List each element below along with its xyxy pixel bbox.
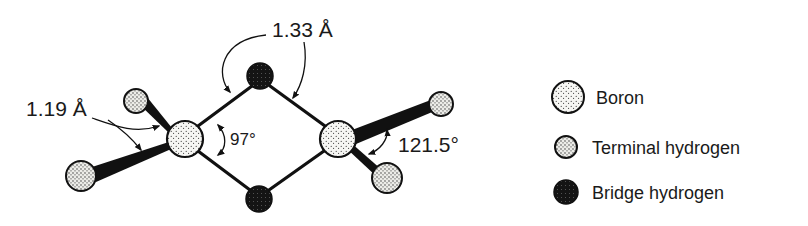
legend-item-bridge-hydrogen: Bridge hydrogen [554,180,724,204]
legend-item-terminal-hydrogen: Terminal hydrogen [555,136,740,158]
boron-atoms [167,121,356,157]
terminal-hydrogen-atom [429,92,453,116]
boron-legend-icon [552,81,584,113]
terminal-hydrogen-atom [66,161,96,191]
boron-atom [320,121,356,157]
diborane-diagram: 1.33 Å 1.19 Å 97° 121.5° Boron Terminal … [0,0,808,226]
terminal-angle-label: 121.5° [398,133,459,156]
terminal-hydrogen-legend-icon [555,136,577,158]
bridge-hydrogen-atom [246,186,272,212]
legend-label-bridge-hydrogen: Bridge hydrogen [592,183,724,203]
bridge-hydrogen-atom [247,63,273,89]
terminal-bond-length-label: 1.19 Å [26,97,87,120]
bridge-hydrogen-legend-icon [554,180,578,204]
terminal-hydrogen-atom [124,89,148,113]
legend-label-terminal-hydrogen: Terminal hydrogen [592,138,740,158]
terminal-hydrogen-atom [372,163,402,193]
bridge-angle-label: 97° [230,130,256,149]
legend-item-boron: Boron [552,81,644,113]
terminal-hydrogens [66,89,453,193]
ring-bonds [198,86,325,190]
bridge-bond-length-label: 1.33 Å [272,18,333,41]
boron-atom [167,121,203,157]
legend-label-boron: Boron [596,88,644,108]
legend: Boron Terminal hydrogen Bridge hydrogen [552,81,740,204]
